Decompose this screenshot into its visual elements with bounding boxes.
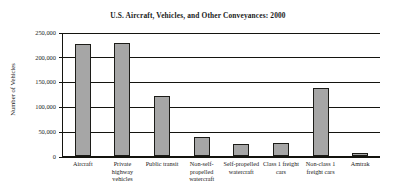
bar — [233, 144, 249, 156]
y-axis-tick-label: 50,000 — [0, 129, 56, 135]
bar — [154, 96, 170, 156]
x-axis-tick-label: Public transit — [142, 160, 182, 168]
x-axis-tick-label: Class 1 freight cars — [261, 160, 301, 175]
x-axis-tick-label: Aircraft — [63, 160, 103, 168]
y-axis-tick-label: 0 — [0, 154, 56, 160]
bar — [75, 44, 91, 156]
y-axis-tick-label: 100,000 — [0, 104, 56, 110]
bar-chart-figure: U.S. Aircraft, Vehicles, and Other Conve… — [0, 0, 396, 195]
x-axis-tick-label: Self-propelled watercraft — [222, 160, 262, 175]
y-axis-tick-labels: 250,000200,000150,000100,00050,0000 — [0, 33, 56, 157]
y-axis-tick-label: 150,000 — [0, 79, 56, 85]
bar — [352, 153, 368, 156]
bar — [313, 88, 329, 156]
y-axis-tick-label: 200,000 — [0, 55, 56, 61]
x-axis-tick-label: Private highway vehicles — [103, 160, 143, 183]
bar — [194, 137, 210, 156]
x-axis-tick-label: Non-self-propelled watercraft — [182, 160, 222, 183]
chart-title: U.S. Aircraft, Vehicles, and Other Conve… — [0, 11, 396, 20]
bar — [114, 43, 130, 156]
y-axis-tick-label: 250,000 — [0, 30, 56, 36]
bar-series — [63, 33, 380, 157]
x-axis-tick-labels: AircraftPrivate highway vehiclesPublic t… — [63, 160, 380, 194]
x-axis-tick-label: Amtrak — [340, 160, 380, 168]
bar — [273, 143, 289, 156]
x-axis-tick-label: Non-class 1 freight cars — [301, 160, 341, 175]
